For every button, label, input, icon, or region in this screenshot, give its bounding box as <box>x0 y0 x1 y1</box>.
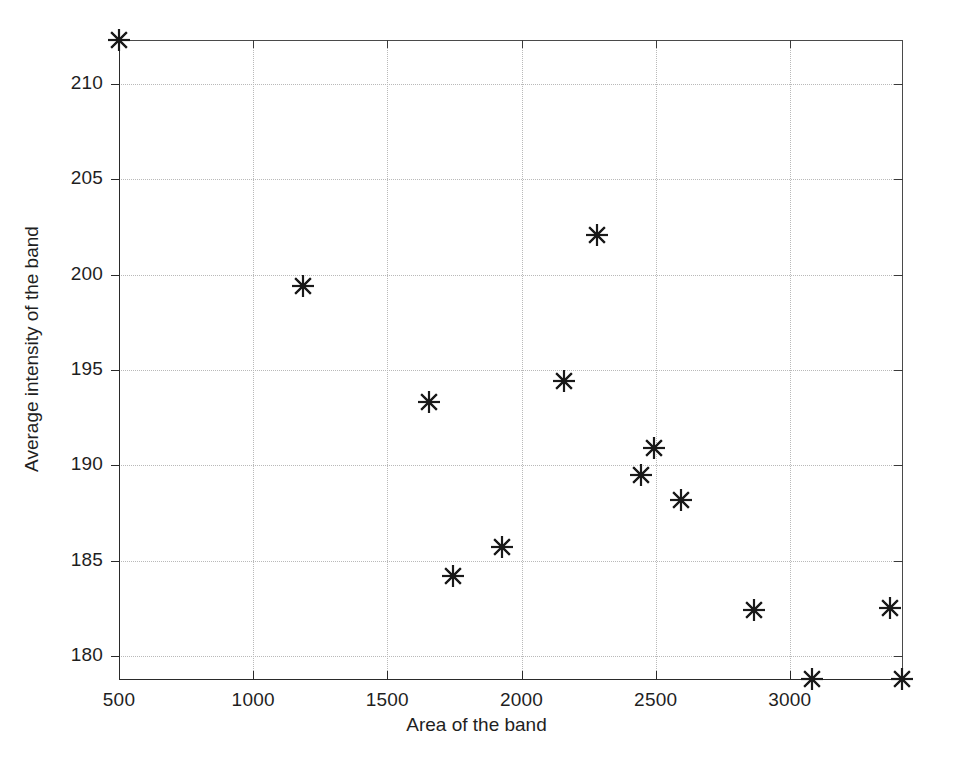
x-axis-tick-label: 2500 <box>611 689 701 711</box>
data-point-marker <box>416 389 442 415</box>
data-point-marker <box>668 487 694 513</box>
x-axis-tick-label: 1000 <box>208 689 298 711</box>
data-point-marker <box>628 462 654 488</box>
y-axis-tick-label: 200 <box>55 263 103 285</box>
x-axis-tick-top <box>790 40 791 48</box>
x-axis-tick-label: 2000 <box>477 689 567 711</box>
y-axis-tick-label: 180 <box>55 644 103 666</box>
y-axis-tick-label: 195 <box>55 358 103 380</box>
data-point-marker <box>584 222 610 248</box>
gridline-vertical <box>790 40 791 679</box>
y-axis-tick-label: 185 <box>55 549 103 571</box>
y-axis-tick-right <box>894 84 903 85</box>
gridline-vertical <box>656 40 657 679</box>
gridline-vertical <box>253 40 254 679</box>
data-point-marker <box>106 27 132 53</box>
data-point-marker <box>641 435 667 461</box>
gridline-vertical <box>522 40 523 679</box>
y-axis-tick-label: 205 <box>55 167 103 189</box>
data-point-marker <box>741 597 767 623</box>
gridline-horizontal <box>119 179 902 180</box>
y-axis-tick <box>111 561 120 562</box>
axis-spine-right <box>902 40 903 680</box>
y-axis-tick-right <box>894 465 903 466</box>
x-axis-tick-label: 3000 <box>745 689 835 711</box>
y-axis-tick <box>111 656 120 657</box>
x-axis-label: Area of the band <box>0 714 953 736</box>
y-axis-tick <box>111 370 120 371</box>
data-point-marker <box>799 666 825 692</box>
data-point-marker <box>877 595 903 621</box>
x-axis-tick-label: 500 <box>74 689 164 711</box>
x-axis-tick-top <box>253 40 254 48</box>
gridline-vertical <box>387 40 388 679</box>
x-axis-tick <box>522 671 523 680</box>
x-axis-tick <box>790 671 791 680</box>
y-axis-tick-label: 210 <box>55 72 103 94</box>
x-axis-tick <box>387 671 388 680</box>
data-point-marker <box>440 563 466 589</box>
plot-area <box>119 40 902 679</box>
y-axis-tick-right <box>894 179 903 180</box>
y-axis-label: Average intensity of the band <box>21 59 43 639</box>
y-axis-tick <box>111 84 120 85</box>
data-point-marker <box>489 534 515 560</box>
y-axis-tick <box>111 275 120 276</box>
y-axis-tick-right <box>894 275 903 276</box>
gridline-horizontal <box>119 656 902 657</box>
gridline-horizontal <box>119 275 902 276</box>
gridline-horizontal <box>119 561 902 562</box>
x-axis-tick-top <box>656 40 657 48</box>
x-axis-tick <box>656 671 657 680</box>
x-axis-tick-top <box>522 40 523 48</box>
scatter-plot-figure: Average intensity of the band Area of th… <box>0 0 953 757</box>
y-axis-tick-right <box>894 370 903 371</box>
y-axis-tick-right <box>894 561 903 562</box>
axis-spine-left <box>119 40 120 680</box>
x-axis-tick-label: 1500 <box>342 689 432 711</box>
gridline-horizontal <box>119 370 902 371</box>
x-axis-tick <box>119 671 120 680</box>
y-axis-tick <box>111 179 120 180</box>
gridline-horizontal <box>119 465 902 466</box>
y-axis-tick-right <box>894 656 903 657</box>
x-axis-tick <box>253 671 254 680</box>
x-axis-tick-top <box>387 40 388 48</box>
data-point-marker <box>551 368 577 394</box>
data-point-marker <box>889 666 915 692</box>
axis-spine-top <box>119 40 903 41</box>
y-axis-tick-label: 190 <box>55 453 103 475</box>
gridline-horizontal <box>119 84 902 85</box>
data-point-marker <box>290 273 316 299</box>
axis-spine-bottom <box>119 679 903 680</box>
y-axis-tick <box>111 465 120 466</box>
